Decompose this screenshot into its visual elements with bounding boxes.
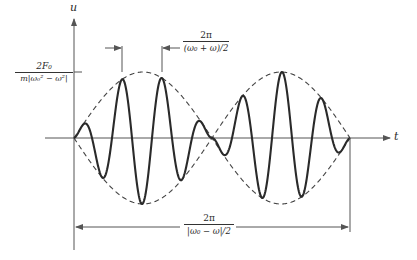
fast-period-label: 2π (ω₀ + ω)/2 bbox=[183, 31, 229, 53]
beat-period-label: 2π |ω₀ − ω|/2 bbox=[184, 214, 234, 236]
fast-period-numerator: 2π bbox=[183, 31, 229, 41]
amplitude-denominator: m|ω₀² − ω²| bbox=[15, 72, 73, 83]
amplitude-label: 2F₀ m|ω₀² − ω²| bbox=[15, 62, 73, 83]
t-axis-label: t bbox=[394, 131, 398, 142]
amplitude-numerator: 2F₀ bbox=[15, 62, 73, 72]
u-axis-label: u bbox=[70, 2, 77, 13]
beat-period-denominator: |ω₀ − ω|/2 bbox=[184, 224, 234, 236]
fast-period-denominator: (ω₀ + ω)/2 bbox=[183, 41, 229, 53]
beat-period-numerator: 2π bbox=[184, 214, 234, 224]
